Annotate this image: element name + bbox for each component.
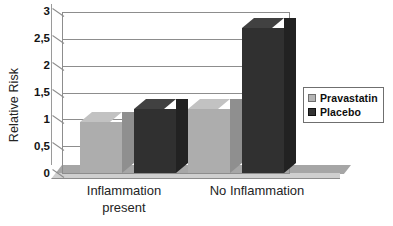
bar-face-front <box>134 109 176 173</box>
bar-face-front <box>188 109 230 173</box>
x-axis-category-labels: Inflammation present No Inflammation <box>50 182 350 226</box>
x-category-inflammation-present: Inflammation present <box>60 182 188 216</box>
bar-face-side <box>122 112 134 173</box>
legend-item-placebo[interactable]: Placebo <box>308 105 378 119</box>
bar-placebo-no-inflammation[interactable] <box>242 28 284 173</box>
bar-face-side <box>284 18 296 173</box>
y-tick-label: 3 <box>24 6 50 18</box>
y-tick-label: 2 <box>24 60 50 72</box>
bar-placebo-inflammation-present[interactable] <box>134 109 176 173</box>
legend-swatch-icon <box>308 94 316 102</box>
bar-face-top <box>188 99 230 109</box>
y-tick-label: 1,5 <box>24 87 50 99</box>
legend-item-pravastatin[interactable]: Pravastatin <box>308 91 378 105</box>
chart-legend: Pravastatin Placebo <box>303 87 384 123</box>
y-tick-label: 0,5 <box>24 141 50 153</box>
gridline-3 <box>62 12 290 13</box>
legend-label: Placebo <box>320 106 361 118</box>
x-category-line-1: Inflammation <box>60 182 188 199</box>
bar-pravastatin-inflammation-present[interactable] <box>80 122 122 173</box>
x-category-no-inflammation: No Inflammation <box>190 182 324 199</box>
back-wall-edge <box>51 4 52 165</box>
plot-area <box>62 12 290 173</box>
y-axis-title: Relative Risk <box>7 45 21 165</box>
y-tick-label: 2,5 <box>24 33 50 45</box>
relative-risk-bar-chart: Relative Risk 3 2,5 2 1,5 1 0,5 0 <box>0 0 393 226</box>
bar-face-top <box>134 99 176 109</box>
bar-face-top <box>80 112 122 122</box>
chart-floor-bevel-right <box>340 165 351 179</box>
bar-pravastatin-no-inflammation[interactable] <box>188 109 230 173</box>
y-tick-label: 1 <box>24 114 50 126</box>
legend-swatch-icon <box>308 108 316 116</box>
gridline-0 <box>62 173 290 174</box>
legend-label: Pravastatin <box>320 92 378 104</box>
y-axis-tick-labels: 3 2,5 2 1,5 1 0,5 0 <box>22 0 50 226</box>
bar-face-front <box>242 28 284 173</box>
bar-face-side <box>230 99 242 173</box>
bar-face-side <box>176 99 188 173</box>
y-tick-label: 0 <box>24 168 50 180</box>
x-category-line-2: present <box>60 199 188 216</box>
bar-face-front <box>80 122 122 173</box>
bar-face-top <box>242 18 284 28</box>
x-category-line-1: No Inflammation <box>190 182 324 199</box>
